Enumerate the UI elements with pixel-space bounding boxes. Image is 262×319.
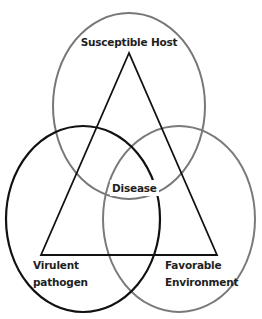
environment-label-line1: Favorable [165,257,238,274]
favorable-environment-label: Favorable Environment [165,257,238,291]
virulent-pathogen-label: Virulent pathogen [33,257,88,291]
pathogen-label-line2: pathogen [33,274,88,291]
environment-label-line2: Environment [165,274,238,291]
pathogen-label-line1: Virulent [33,257,88,274]
disease-label: Disease [110,180,159,196]
disease-triangle [41,53,217,255]
susceptible-host-label: Susceptible Host [0,34,258,51]
